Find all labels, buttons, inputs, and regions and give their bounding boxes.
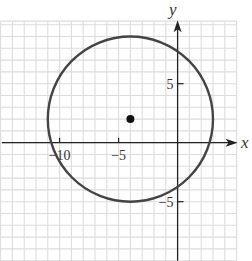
center-point [126, 115, 134, 123]
y-axis-label: y [167, 0, 177, 19]
axes [2, 20, 238, 261]
y-tick-label: 5 [167, 77, 174, 92]
center-dot [126, 115, 134, 123]
coordinate-plane: −10−55−5 x y [0, 0, 252, 261]
x-axis-label: x [240, 133, 249, 152]
x-tick-label: −5 [111, 148, 126, 163]
